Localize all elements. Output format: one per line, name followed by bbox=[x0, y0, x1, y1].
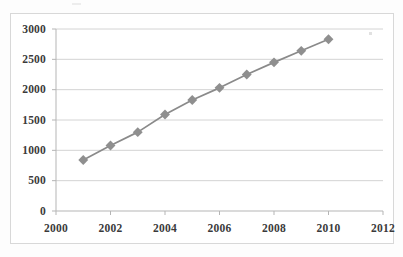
x-tick-label-2004: 2004 bbox=[143, 222, 187, 234]
y-tick-label-2500: 2500 bbox=[4, 53, 46, 65]
y-tick-label-0: 0 bbox=[4, 205, 46, 217]
x-tick-label-2008: 2008 bbox=[252, 222, 296, 234]
x-tick-label-2000: 2000 bbox=[34, 222, 78, 234]
chart-figure: 3000 2500 2000 1500 1000 500 0 2000 2002… bbox=[0, 0, 403, 257]
y-tick-label-1500: 1500 bbox=[4, 114, 46, 126]
chart-plot-frame: 3000 2500 2000 1500 1000 500 0 2000 2002… bbox=[10, 13, 394, 244]
data-point-2004 bbox=[160, 110, 170, 120]
data-point-2009 bbox=[296, 46, 306, 56]
scan-artifact-top bbox=[72, 3, 81, 5]
x-tick-marks bbox=[56, 211, 383, 215]
y-tick-label-2000: 2000 bbox=[4, 83, 46, 95]
gridlines bbox=[56, 29, 383, 181]
line-chart-canvas bbox=[11, 14, 393, 243]
data-point-2010 bbox=[324, 34, 334, 44]
data-point-2005 bbox=[187, 95, 197, 105]
y-tick-label-1000: 1000 bbox=[4, 144, 46, 156]
data-point-2007 bbox=[242, 70, 252, 80]
scan-artifact-speck bbox=[369, 32, 372, 35]
x-tick-label-2002: 2002 bbox=[89, 222, 133, 234]
data-point-2001 bbox=[78, 155, 88, 165]
data-line-series-1 bbox=[83, 39, 328, 160]
data-point-2002 bbox=[106, 141, 116, 151]
y-tick-label-3000: 3000 bbox=[4, 23, 46, 35]
x-tick-label-2010: 2010 bbox=[307, 222, 351, 234]
data-point-2003 bbox=[133, 127, 143, 137]
x-tick-label-2012: 2012 bbox=[361, 222, 403, 234]
x-tick-label-2006: 2006 bbox=[198, 222, 242, 234]
data-point-2006 bbox=[215, 83, 225, 93]
y-tick-marks bbox=[52, 29, 56, 211]
y-tick-label-500: 500 bbox=[4, 174, 46, 186]
